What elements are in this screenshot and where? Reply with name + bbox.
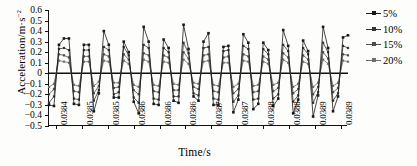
y-tick-label: 0 [14, 69, 42, 78]
data-point-marker [227, 45, 230, 48]
legend-label: 20% [383, 55, 402, 66]
y-tick-mark [45, 73, 49, 74]
y-tick-label: 0.5 [14, 16, 42, 25]
data-point-marker [187, 48, 190, 51]
x-tick-label: 0.0386 [163, 101, 173, 125]
data-point-marker [262, 41, 265, 44]
data-point-marker [63, 47, 65, 49]
data-point-marker [58, 44, 61, 47]
legend-marker-icon [366, 24, 382, 34]
data-point-marker [182, 23, 185, 26]
data-point-marker [342, 36, 345, 39]
data-point-marker [122, 40, 125, 43]
y-tick-label: 0.6 [14, 6, 42, 15]
y-tick-label: 0.2 [14, 48, 42, 57]
data-point-marker [307, 50, 310, 53]
data-point-marker [347, 34, 350, 37]
y-tick-label: −0.2 [14, 90, 42, 99]
y-tick-label: −0.1 [14, 79, 42, 88]
y-tick-label: −0.5 [14, 122, 42, 131]
data-point-marker [322, 26, 325, 29]
data-point-marker [103, 30, 106, 33]
data-point-marker [127, 51, 130, 54]
legend-item-5pct[interactable]: 5% [366, 6, 417, 22]
y-tick-mark [45, 42, 49, 43]
legend-label: 15% [383, 39, 402, 50]
y-tick-mark [45, 21, 49, 22]
data-point-marker [302, 39, 305, 42]
data-point-marker [83, 44, 86, 47]
y-tick-mark [45, 31, 49, 32]
x-tick-label: 0.0388 [266, 101, 276, 125]
x-tick-label: 0.0385 [111, 101, 121, 125]
data-point-marker [222, 46, 225, 49]
y-tick-mark [45, 52, 49, 53]
data-point-marker [147, 40, 150, 43]
y-tick-label: 0.4 [14, 27, 42, 36]
y-axis-ticks: 0.60.50.40.30.20.10−0.1−0.2−0.3−0.4−0.5 [12, 0, 42, 166]
legend-item-15pct[interactable]: 15% [366, 37, 417, 53]
x-tick-label: 0.0389 [318, 101, 328, 125]
data-point-marker [167, 47, 170, 50]
data-point-marker [202, 40, 205, 43]
x-axis-title: Time/s [0, 146, 417, 158]
legend-marker-icon [366, 9, 382, 19]
y-tick-mark [45, 63, 49, 64]
data-point-marker [88, 44, 91, 47]
x-tick-label: 0.0386 [137, 101, 147, 125]
data-point-marker [347, 54, 349, 56]
data-point-marker [162, 38, 165, 41]
legend-marker-icon [366, 40, 382, 50]
legend-marker-icon [366, 55, 382, 65]
data-point-marker [287, 45, 290, 48]
data-point-marker [142, 26, 145, 29]
data-point-marker [103, 46, 105, 48]
x-axis-title-text: Time/s [178, 146, 211, 158]
data-point-marker [247, 41, 250, 44]
legend-item-20pct[interactable]: 20% [366, 53, 417, 69]
data-point-marker [327, 47, 330, 50]
data-point-marker [242, 33, 245, 36]
legend: 5%10%15%20% [366, 6, 417, 68]
data-point-marker [108, 44, 111, 47]
y-tick-label: 0.1 [14, 58, 42, 67]
x-tick-label: 0.0388 [292, 101, 302, 125]
legend-label: 5% [383, 8, 397, 19]
x-tick-label: 0.0389 [344, 101, 354, 125]
chart-figure: Acceleration/m·s−2 0.60.50.40.30.20.10−0… [0, 0, 417, 166]
y-tick-mark [45, 10, 49, 11]
data-point-marker [267, 49, 270, 52]
y-tick-label: 0.3 [14, 37, 42, 46]
data-point-marker [347, 61, 349, 63]
x-tick-label: 0.0387 [214, 101, 224, 125]
legend-item-10pct[interactable]: 10% [366, 22, 417, 38]
y-tick-label: −0.4 [14, 111, 42, 120]
data-point-marker [63, 54, 65, 56]
x-tick-label: 0.0387 [240, 101, 250, 125]
data-point-marker [207, 32, 210, 35]
y-tick-label: −0.3 [14, 100, 42, 109]
data-point-marker [282, 29, 285, 32]
data-point-marker [347, 47, 349, 49]
x-tick-label: 0.0386 [188, 101, 198, 125]
data-point-marker [63, 61, 65, 63]
x-axis-ticks: 0.03840.03850.03850.03860.03860.03860.03… [48, 79, 347, 139]
x-tick-label: 0.0384 [59, 101, 69, 125]
x-tick-label: 0.0385 [85, 101, 95, 125]
data-point-marker [63, 37, 66, 40]
data-point-marker [68, 37, 71, 40]
legend-label: 10% [383, 24, 402, 35]
